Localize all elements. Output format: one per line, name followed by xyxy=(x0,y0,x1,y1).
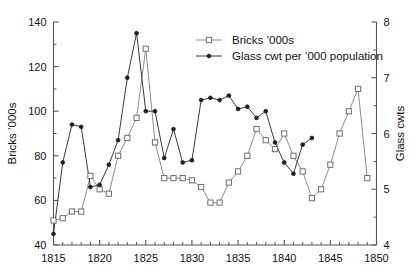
data-point-glass xyxy=(125,76,129,80)
data-point-glass xyxy=(79,125,83,129)
y-axis-left-tick-label: 140 xyxy=(28,16,46,28)
y-axis-right-title: Glass cwts xyxy=(394,105,406,161)
data-point-bricks xyxy=(282,131,287,136)
data-point-bricks xyxy=(116,153,121,158)
data-point-bricks xyxy=(365,176,370,181)
data-point-glass xyxy=(162,156,166,160)
data-point-glass xyxy=(282,161,286,165)
data-point-bricks xyxy=(235,169,240,174)
data-point-bricks xyxy=(134,115,139,120)
data-point-bricks xyxy=(263,138,268,143)
data-point-bricks xyxy=(97,187,102,192)
legend-label-bricks: Bricks ’000s xyxy=(232,34,294,46)
data-point-bricks xyxy=(60,216,65,221)
y-axis-left-tick-label: 120 xyxy=(28,61,46,73)
x-axis-tick-label: 1835 xyxy=(226,252,250,264)
data-point-glass xyxy=(181,161,185,165)
data-point-glass xyxy=(190,158,194,162)
data-point-bricks xyxy=(152,140,157,145)
y-axis-left-tick-label: 80 xyxy=(34,150,46,162)
data-point-glass xyxy=(98,183,102,187)
y-axis-right-tick-label: 5 xyxy=(384,183,390,195)
y-axis-left-tick-label: 60 xyxy=(34,194,46,206)
data-point-bricks xyxy=(208,200,213,205)
x-axis-tick-label: 1820 xyxy=(87,252,111,264)
x-axis-tick-label: 1825 xyxy=(134,252,158,264)
data-point-glass xyxy=(70,123,74,127)
data-point-glass xyxy=(310,136,314,140)
data-point-bricks xyxy=(291,153,296,158)
data-point-bricks xyxy=(143,46,148,51)
data-point-bricks xyxy=(226,180,231,185)
data-point-bricks xyxy=(189,178,194,183)
legend-marker-glass xyxy=(207,54,211,58)
data-point-glass xyxy=(107,163,111,167)
data-point-bricks xyxy=(319,187,324,192)
y-axis-right-tick-label: 8 xyxy=(384,16,390,28)
data-point-bricks xyxy=(328,162,333,167)
data-point-glass xyxy=(292,172,296,176)
series-line-glass xyxy=(54,33,312,234)
data-point-glass xyxy=(135,31,139,35)
data-point-glass xyxy=(61,161,65,165)
data-point-glass xyxy=(153,109,157,113)
data-point-bricks xyxy=(337,131,342,136)
data-point-bricks xyxy=(88,173,93,178)
data-point-bricks xyxy=(309,196,314,201)
data-point-glass xyxy=(172,127,176,131)
data-point-glass xyxy=(199,98,203,102)
x-axis-tick-label: 1830 xyxy=(180,252,204,264)
data-point-glass xyxy=(227,94,231,98)
data-point-bricks xyxy=(199,184,204,189)
data-point-bricks xyxy=(125,135,130,140)
x-axis-tick-label: 1850 xyxy=(364,252,388,264)
data-point-bricks xyxy=(272,147,277,152)
data-point-bricks xyxy=(180,176,185,181)
data-point-bricks xyxy=(79,209,84,214)
y-axis-right-tick-label: 4 xyxy=(384,239,390,251)
chart-container: 4060801001201404567818151820182518301835… xyxy=(0,0,418,271)
data-point-bricks xyxy=(69,209,74,214)
data-point-glass xyxy=(89,185,93,189)
data-point-glass xyxy=(52,232,56,236)
x-axis-tick-label: 1840 xyxy=(272,252,296,264)
y-axis-right-tick-label: 6 xyxy=(384,128,390,140)
data-point-glass xyxy=(208,96,212,100)
y-axis-left-tick-label: 100 xyxy=(28,105,46,117)
data-point-glass xyxy=(245,105,249,109)
data-point-glass xyxy=(255,116,259,120)
data-point-bricks xyxy=(162,176,167,181)
y-axis-right-tick-label: 7 xyxy=(384,72,390,84)
data-point-bricks xyxy=(106,191,111,196)
data-point-bricks xyxy=(171,176,176,181)
data-point-glass xyxy=(116,138,120,142)
data-point-bricks xyxy=(245,153,250,158)
data-point-glass xyxy=(301,143,305,147)
data-point-bricks xyxy=(355,86,360,91)
legend-marker-bricks xyxy=(206,37,211,42)
data-point-glass xyxy=(236,107,240,111)
data-point-bricks xyxy=(346,109,351,114)
x-axis-tick-label: 1845 xyxy=(318,252,342,264)
x-axis-tick-label: 1815 xyxy=(41,252,65,264)
data-point-glass xyxy=(144,109,148,113)
data-point-bricks xyxy=(254,126,259,131)
line-chart: 4060801001201404567818151820182518301835… xyxy=(0,0,418,271)
series-line-bricks xyxy=(54,49,368,221)
data-point-glass xyxy=(218,98,222,102)
y-axis-left-title: Bricks ’000s xyxy=(6,102,18,164)
y-axis-left-tick-label: 40 xyxy=(34,239,46,251)
data-point-bricks xyxy=(51,218,56,223)
data-point-glass xyxy=(264,109,268,113)
data-point-bricks xyxy=(217,200,222,205)
data-point-bricks xyxy=(300,169,305,174)
legend-label-glass: Glass cwt per ’000 population xyxy=(232,50,383,62)
data-point-glass xyxy=(273,141,277,145)
